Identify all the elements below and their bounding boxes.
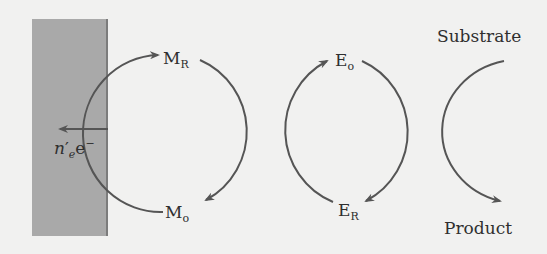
substrate-product-arc xyxy=(442,61,504,201)
mediator-reduced-label: MR xyxy=(163,50,189,70)
diagram-canvas: n′ee− MR Mo Eo ER Substrate Product xyxy=(0,0,547,254)
electron-label: n′ee− xyxy=(54,138,95,160)
enzyme-reduced-label: ER xyxy=(338,202,359,222)
enzyme-oxidation-arc xyxy=(285,61,333,202)
mediator-oxidation-arc xyxy=(83,55,163,212)
mediator-oxidized-label: Mo xyxy=(165,204,189,224)
substrate-label: Substrate xyxy=(437,28,521,45)
enzyme-oxidized-label: Eo xyxy=(335,52,354,72)
enzyme-reduction-arc xyxy=(362,61,408,201)
product-label: Product xyxy=(444,220,512,237)
mediator-reduction-arc xyxy=(200,60,247,200)
